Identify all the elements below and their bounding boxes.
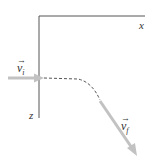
- x-axis-label: x: [139, 20, 144, 31]
- vector-arrow-icon: →: [121, 114, 130, 123]
- vector-arrow-icon: →: [17, 56, 26, 65]
- trajectory-path: [44, 78, 100, 100]
- final-velocity-label: →vf: [121, 120, 129, 135]
- final-velocity-arrow: [100, 101, 137, 156]
- diagram-canvas: x z →vi →vf: [0, 0, 164, 162]
- initial-velocity-label: →vi: [17, 62, 25, 77]
- z-axis-label: z: [29, 110, 33, 121]
